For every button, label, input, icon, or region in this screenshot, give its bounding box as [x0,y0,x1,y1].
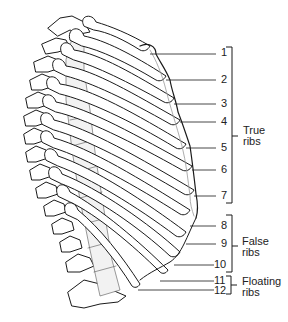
rib-number-3: 3 [221,98,227,109]
rib-number-8: 8 [221,220,227,231]
label-floating-ribs: Floating ribs [242,276,281,298]
rib-number-6: 6 [221,164,227,175]
label-true-ribs: True ribs [243,125,265,147]
rib-number-5: 5 [221,142,227,153]
rib-number-1: 1 [221,47,227,58]
ribs [41,16,194,287]
bracket-floating-ribs [226,276,231,294]
rib-number-7: 7 [221,190,227,201]
rib-number-12: 12 [214,285,226,296]
rib-cage-diagram [0,0,288,322]
label-floating-ribs-line2: ribs [242,287,281,298]
rib-number-2: 2 [221,74,227,85]
group-brackets [226,47,238,294]
label-false-ribs: False ribs [242,236,269,258]
rib-number-9: 9 [221,238,227,249]
label-true-ribs-line2: ribs [243,136,265,147]
rib-number-4: 4 [221,116,227,127]
label-false-ribs-line2: ribs [242,247,269,258]
rib-number-10: 10 [214,259,226,270]
